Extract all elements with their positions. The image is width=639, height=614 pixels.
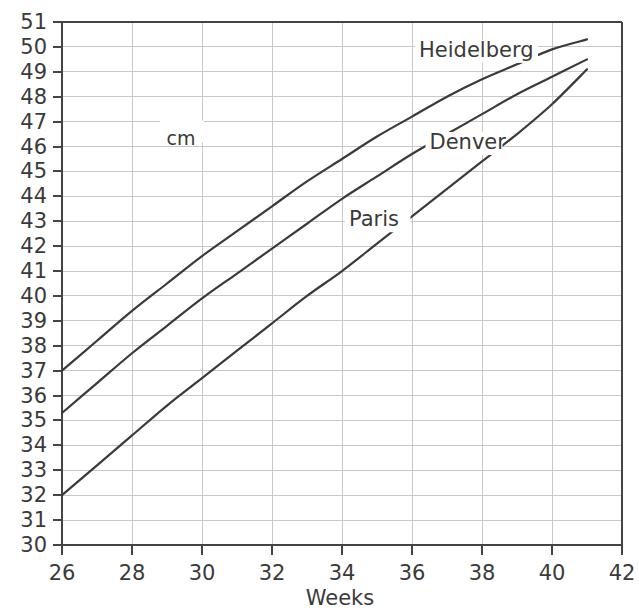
y-tick-label: 51 <box>20 10 47 34</box>
y-tick-label: 46 <box>20 135 47 159</box>
y-tick-label: 44 <box>20 184 47 208</box>
tick-marks <box>53 22 622 555</box>
y-tick-label: 30 <box>20 533 47 557</box>
y-tick-label: 37 <box>20 359 47 383</box>
series-label-heidelberg: Heidelberg <box>419 38 533 62</box>
chart-canvas: 3031323334353637383940414243444546474849… <box>0 0 639 614</box>
x-tick-label: 36 <box>399 561 426 585</box>
y-tick-label: 49 <box>20 60 47 84</box>
x-tick-label: 42 <box>609 561 636 585</box>
y-tick-label: 33 <box>20 458 47 482</box>
y-tick-label: 31 <box>20 508 47 532</box>
y-tick-label: 36 <box>20 384 47 408</box>
x-tick-label: 32 <box>259 561 286 585</box>
y-tick-label: 35 <box>20 408 47 432</box>
y-tick-label: 32 <box>20 483 47 507</box>
x-axis-tick-labels: 262830323436384042 <box>49 561 636 585</box>
y-tick-label: 43 <box>20 209 47 233</box>
y-unit-label: cm <box>167 127 196 149</box>
series-label-paris: Paris <box>349 207 399 231</box>
y-tick-label: 38 <box>20 334 47 358</box>
y-tick-label: 42 <box>20 234 47 258</box>
y-tick-label: 40 <box>20 284 47 308</box>
y-tick-label: 50 <box>20 35 47 59</box>
growth-chart: 3031323334353637383940414243444546474849… <box>0 0 639 614</box>
y-tick-label: 47 <box>20 110 47 134</box>
x-tick-label: 34 <box>329 561 356 585</box>
series-curve-paris <box>62 69 587 495</box>
x-tick-label: 26 <box>49 561 76 585</box>
y-axis-tick-labels: 3031323334353637383940414243444546474849… <box>20 10 47 557</box>
grid-layer <box>62 22 622 545</box>
series-curve-denver <box>62 59 587 413</box>
y-tick-label: 48 <box>20 85 47 109</box>
x-tick-label: 40 <box>539 561 566 585</box>
y-tick-label: 34 <box>20 433 47 457</box>
series-curves <box>62 39 587 495</box>
x-tick-label: 38 <box>469 561 496 585</box>
x-tick-label: 30 <box>189 561 216 585</box>
x-axis-title: Weeks <box>306 586 374 610</box>
x-tick-label: 28 <box>119 561 146 585</box>
y-tick-label: 41 <box>20 259 47 283</box>
y-tick-label: 39 <box>20 309 47 333</box>
y-tick-label: 45 <box>20 159 47 183</box>
series-label-denver: Denver <box>430 130 507 154</box>
